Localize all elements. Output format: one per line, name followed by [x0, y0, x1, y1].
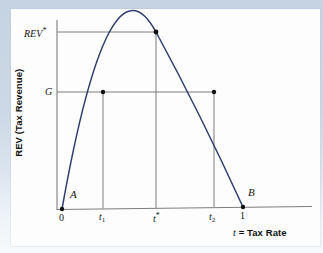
t2-subscript: 2: [212, 216, 216, 224]
x-tick-label-t2: t2: [209, 212, 215, 224]
x-tick-label-1: 1: [240, 211, 245, 221]
point-B: [241, 205, 245, 209]
y-tick-label-g: G: [45, 87, 52, 97]
screenshot-root: REV (Tax Revenue) t = Tax Rate REV* G 0 …: [0, 0, 323, 253]
point-t1-G: [101, 90, 105, 94]
point-label-B: B: [248, 187, 255, 198]
x-tick-label-tstar: t*: [153, 212, 160, 224]
x-axis-title: t = Tax Rate: [233, 228, 287, 238]
point-A: [60, 207, 64, 211]
x-axis: [57, 207, 312, 210]
y-tick-label-rev-star: REV*: [24, 27, 46, 39]
rev-star-text: REV: [24, 28, 42, 39]
t1-subscript: 1: [102, 216, 106, 224]
x-tick-label-0: 0: [59, 213, 64, 223]
rev-star-mark: *: [42, 26, 46, 35]
x-axis-title-rest: = Tax Rate: [236, 227, 287, 238]
tstar-mark: *: [156, 211, 160, 220]
laffer-curve-figure: [0, 0, 323, 253]
point-peak: [154, 30, 159, 35]
laffer-curve-path: [62, 10, 243, 209]
point-label-A: A: [70, 189, 77, 200]
x-tick-label-t1: t1: [99, 212, 105, 224]
point-t2-G: [212, 90, 216, 94]
y-axis-title: REV (Tax Revenue): [14, 53, 24, 173]
